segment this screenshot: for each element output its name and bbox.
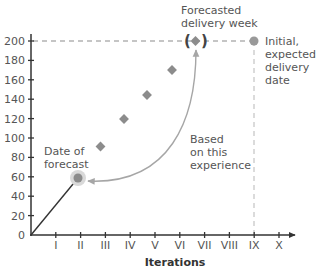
projected-diamonds [96,65,177,151]
annotation-initial-delivery: Initial, expected delivery date [265,35,316,87]
y-tick-label: 0 [18,229,25,242]
y-tick-label: 60 [11,171,25,184]
annotation-text: Based [190,133,224,146]
diamond-marker [167,65,177,75]
annotation-text: Forecasted [181,4,241,17]
forecast-diamond [191,36,201,46]
y-axis-ticks: 020406080100120140160180200 [4,35,34,242]
diamond-marker [96,142,106,152]
diamond-marker [119,114,129,124]
annotation-text: date [265,74,290,87]
x-tick-label: VIII [221,239,238,252]
x-tick-label: VI [174,239,185,252]
x-tick-label: VII [198,239,212,252]
axes [30,34,295,236]
x-axis-title: Iterations [145,256,206,269]
forecast-paren-left: ( [184,32,191,50]
progress-line [31,178,78,235]
x-tick-label: IV [125,239,136,252]
annotation-text: on this [190,146,228,159]
x-tick-label: X [275,239,283,252]
y-tick-label: 140 [4,93,25,106]
forecast-date-marker [70,170,86,186]
annotation-text: Initial, [265,35,299,48]
y-tick-label: 200 [4,35,25,48]
annotation-text: experience [190,159,251,172]
x-tick-label: II [77,239,84,252]
initial-delivery-dot [250,37,259,46]
forecast-date-dot [74,174,83,183]
x-tick-label: IX [249,239,260,252]
y-tick-label: 100 [4,132,25,145]
diamond-marker [142,90,152,100]
y-tick-label: 80 [11,151,25,164]
forecast-paren-right: ) [201,32,208,50]
y-tick-label: 180 [4,54,25,67]
annotation-text: Date of [44,145,86,158]
annotation-based-on-experience: Based on this experience [190,133,251,172]
annotation-text: forecast [44,158,89,171]
iterations-forecast-chart: 020406080100120140160180200 IIIIIIIVVVIV… [0,0,318,275]
y-tick-label: 120 [4,113,25,126]
annotation-forecasted-delivery: Forecasted delivery week [181,4,258,30]
x-tick-label: I [54,239,57,252]
x-tick-label: V [151,239,159,252]
forecasted-delivery-marker: ( ) [184,32,208,50]
y-tick-label: 40 [11,190,25,203]
y-tick-label: 160 [4,74,25,87]
y-tick-label: 20 [11,210,25,223]
x-tick-label: III [101,239,111,252]
annotation-text: expected [265,48,316,61]
annotation-text: delivery [265,61,310,74]
experience-curved-arrow [88,50,196,181]
annotation-date-of-forecast: Date of forecast [44,145,89,171]
annotation-text: delivery week [181,17,258,30]
